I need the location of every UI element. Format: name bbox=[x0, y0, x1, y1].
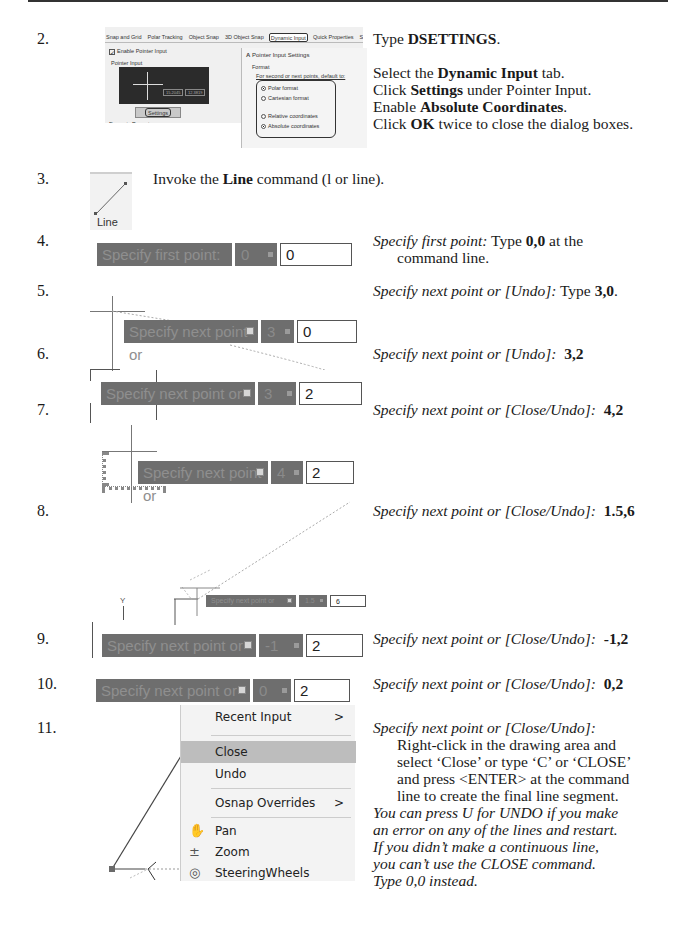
line-tool-button[interactable]: Line bbox=[90, 172, 132, 230]
options-icon[interactable] bbox=[238, 686, 246, 694]
preview-y-box: 12.3819 bbox=[185, 89, 205, 96]
drawn-line bbox=[92, 622, 93, 658]
step-number: 6. bbox=[37, 345, 49, 363]
drawing-lines bbox=[100, 750, 190, 885]
command-prompt: Specify next point or bbox=[124, 320, 258, 343]
command-prompt: Specify next point or bbox=[206, 595, 296, 607]
lock-icon bbox=[285, 329, 290, 334]
step-number: 2. bbox=[37, 30, 49, 48]
tab-polar-tracking[interactable]: Polar Tracking bbox=[146, 33, 183, 42]
endpoint-marker bbox=[109, 866, 115, 872]
steering-wheel-icon: ◎ bbox=[189, 862, 200, 884]
tab-3d-object-snap[interactable]: 3D Object Snap bbox=[224, 33, 265, 42]
autocad-logo-icon: A bbox=[246, 52, 250, 58]
drawn-line bbox=[90, 403, 91, 423]
options-icon[interactable] bbox=[244, 641, 252, 649]
dynamic-input-tooltip: Specify next point or 3 2 bbox=[101, 382, 362, 405]
step-number: 5. bbox=[37, 282, 49, 300]
radio-selected-icon bbox=[261, 86, 266, 91]
y-coordinate-input[interactable]: 2 bbox=[299, 382, 362, 405]
default-text: For second or next points, default to: bbox=[256, 73, 345, 79]
x-coordinate-field[interactable]: 1.5 bbox=[299, 595, 327, 607]
settings-button[interactable]: Settings bbox=[145, 108, 171, 117]
y-coordinate-input[interactable]: 0 bbox=[280, 243, 352, 266]
menu-item-pan[interactable]: ✋Pan bbox=[181, 820, 356, 842]
step8-instructions: Specify next point or [Close/Undo]: 1.5,… bbox=[373, 502, 635, 519]
dynamic-input-tooltip: Specify first point: 0 0 bbox=[97, 243, 352, 266]
crosshair-horizontal bbox=[102, 451, 157, 452]
lock-icon bbox=[282, 688, 287, 693]
dynamic-input-tooltip: Specify next point or 0 2 bbox=[96, 679, 350, 702]
dynamic-prompts-label: Dynamic Prompts bbox=[109, 121, 152, 123]
x-coordinate-field[interactable]: 3 bbox=[258, 382, 296, 405]
y-coordinate-input[interactable]: 2 bbox=[306, 634, 363, 657]
tab-selection[interactable]: Selec bbox=[359, 33, 363, 42]
lock-icon bbox=[294, 643, 299, 648]
line-tool-label: Line bbox=[97, 216, 118, 228]
menu-item-undo[interactable]: Undo bbox=[181, 763, 356, 785]
menu-item-steeringwheels[interactable]: ◎SteeringWheels bbox=[181, 862, 356, 884]
menu-item-close[interactable]: Close bbox=[181, 741, 356, 763]
pointer-input-settings-dialog: A Pointer Input Settings Format For seco… bbox=[241, 48, 367, 148]
chevron-right-icon: > bbox=[334, 706, 344, 728]
crosshair-vertical bbox=[131, 425, 132, 503]
lock-icon bbox=[287, 391, 292, 396]
pointer-preview: 15.2045 12.3819 bbox=[119, 67, 209, 104]
dynamic-input-tooltip: Specify next point or 3 0 bbox=[124, 320, 357, 343]
dimension-guide bbox=[102, 486, 166, 490]
x-coordinate-field[interactable]: 0 bbox=[235, 243, 277, 266]
tab-snap-grid[interactable]: Snap and Grid bbox=[105, 33, 142, 42]
step7-instructions: Specify next point or [Close/Undo]: 4,2 bbox=[373, 401, 623, 418]
command-prompt: Specify next point or bbox=[138, 461, 268, 484]
tab-quick-properties[interactable]: Quick Properties bbox=[312, 33, 355, 42]
dynamic-input-tooltip: Specify next point or -1 2 bbox=[102, 634, 363, 657]
x-coordinate-field[interactable]: 4 bbox=[271, 461, 303, 484]
menu-separator bbox=[211, 788, 351, 789]
ucs-axis bbox=[123, 606, 124, 620]
options-icon[interactable] bbox=[287, 598, 292, 603]
step11-instructions: Specify next point or [Close/Undo]: Righ… bbox=[373, 719, 631, 889]
cartesian-format-radio[interactable]: Cartesian format bbox=[261, 95, 309, 101]
absolute-coordinates-radio[interactable]: Absolute coordinates bbox=[261, 123, 319, 129]
top-rule bbox=[28, 0, 668, 2]
command-prompt: Specify next point or bbox=[101, 382, 255, 405]
settings-button-wrap: Settings bbox=[135, 107, 181, 118]
step2-instructions: Type DSETTINGS. Select the Dynamic Input… bbox=[373, 30, 633, 132]
polar-format-radio[interactable]: Polar format bbox=[261, 85, 298, 91]
step9-instructions: Specify next point or [Close/Undo]: -1,2 bbox=[373, 630, 628, 647]
x-coordinate-field[interactable]: -1 bbox=[259, 634, 303, 657]
y-coordinate-input[interactable]: 0 bbox=[297, 320, 357, 343]
step10-instructions: Specify next point or [Close/Undo]: 0,2 bbox=[373, 675, 623, 692]
crosshair-icon bbox=[133, 84, 163, 85]
checkbox-icon: ✓ bbox=[109, 49, 115, 55]
step-number: 11. bbox=[37, 719, 56, 737]
tab-dynamic-input[interactable]: Dynamic Input bbox=[269, 33, 308, 42]
options-icon[interactable] bbox=[246, 327, 254, 335]
lock-icon bbox=[320, 599, 323, 602]
y-coordinate-input[interactable]: 2 bbox=[294, 679, 350, 702]
menu-item-osnap-overrides[interactable]: Osnap Overrides> bbox=[181, 792, 356, 814]
step-number: 4. bbox=[37, 232, 49, 250]
step5-instructions: Specify next point or [Undo]: Type 3,0. bbox=[373, 282, 618, 299]
options-icon[interactable] bbox=[243, 389, 251, 397]
step-number: 8. bbox=[37, 502, 49, 520]
menu-item-zoom[interactable]: ±Zoom bbox=[181, 841, 356, 863]
tab-object-snap[interactable]: Object Snap bbox=[188, 33, 220, 42]
enable-pointer-input-checkbox[interactable]: ✓Enable Pointer Input bbox=[109, 48, 167, 55]
pointer-settings-title: A Pointer Input Settings bbox=[246, 52, 309, 58]
hand-icon: ✋ bbox=[189, 820, 205, 842]
radio-icon bbox=[261, 114, 266, 119]
radio-selected-icon bbox=[261, 124, 266, 129]
step4-instructions: Specify first point: Type 0,0 at the com… bbox=[373, 232, 583, 266]
y-coordinate-input[interactable]: 2 bbox=[306, 461, 354, 484]
x-coordinate-field[interactable]: 0 bbox=[253, 679, 291, 702]
relative-coordinates-radio[interactable]: Relative coordinates bbox=[261, 113, 318, 119]
options-icon[interactable] bbox=[256, 468, 264, 476]
menu-separator bbox=[211, 817, 351, 818]
command-prompt: Specify first point: bbox=[97, 243, 232, 266]
y-coordinate-input[interactable]: 6 bbox=[330, 595, 366, 607]
dynamic-input-tooltip: Specify next point or 4 2 bbox=[138, 461, 354, 484]
x-coordinate-field[interactable]: 3 bbox=[261, 320, 294, 343]
menu-item-recent-input[interactable]: Recent Input> bbox=[181, 706, 356, 728]
lock-icon bbox=[294, 470, 299, 475]
